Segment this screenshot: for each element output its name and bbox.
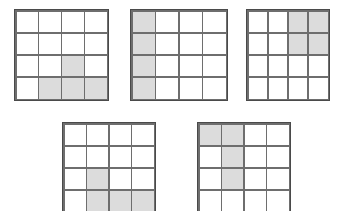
grid-cell (267, 191, 288, 211)
grid-cell (110, 169, 131, 190)
grid-cell (87, 125, 108, 146)
grid-cell (200, 191, 221, 211)
grid-cell (245, 147, 266, 168)
grid-1 (14, 9, 109, 101)
grid-cell (110, 147, 131, 168)
grid-cell (65, 169, 86, 190)
grid-cell (269, 12, 288, 33)
grid-cell (180, 34, 202, 55)
grid-cell (132, 169, 153, 190)
grid-cell (65, 191, 86, 211)
grid-cell (62, 78, 83, 99)
grid-cell (17, 56, 38, 77)
grid-cell (110, 191, 131, 211)
grid-cell (180, 12, 202, 33)
grid-cell (289, 12, 308, 33)
grid-cell (17, 78, 38, 99)
grid-cell (85, 78, 106, 99)
grid-cell (267, 125, 288, 146)
grid-3 (246, 9, 330, 101)
grid-cell (249, 12, 268, 33)
grid-cell (156, 78, 178, 99)
grid-cell (222, 125, 243, 146)
grid-2 (130, 9, 228, 101)
grid-cell (65, 147, 86, 168)
grid-cell (289, 78, 308, 99)
grids-canvas (0, 0, 345, 211)
grid-cell (249, 56, 268, 77)
grid-cell (200, 147, 221, 168)
grid-cell (62, 12, 83, 33)
grid-cell (156, 56, 178, 77)
grid-cell (309, 34, 328, 55)
grid-cell (222, 191, 243, 211)
grid-cell (85, 12, 106, 33)
grid-cell (65, 125, 86, 146)
grid-cell (87, 191, 108, 211)
grid-cell (39, 78, 60, 99)
grid-cell (267, 147, 288, 168)
grid-cell (249, 78, 268, 99)
grid-cell (17, 12, 38, 33)
grid-cell (132, 191, 153, 211)
grid-cell (245, 169, 266, 190)
grid-cell (200, 169, 221, 190)
grid-cell (249, 34, 268, 55)
grid-cell (85, 34, 106, 55)
grid-cell (39, 56, 60, 77)
grid-cell (133, 12, 155, 33)
grid-cell (133, 56, 155, 77)
grid-cell (132, 125, 153, 146)
grid-cell (309, 56, 328, 77)
grid-cell (180, 78, 202, 99)
grid-5 (197, 122, 291, 211)
grid-cell (269, 56, 288, 77)
grid-4 (62, 122, 156, 211)
grid-cell (39, 34, 60, 55)
grid-cell (269, 78, 288, 99)
grid-cell (156, 12, 178, 33)
grid-cell (203, 12, 225, 33)
grid-cell (200, 125, 221, 146)
grid-cell (289, 34, 308, 55)
grid-cell (133, 34, 155, 55)
grid-cell (203, 34, 225, 55)
grid-cell (17, 34, 38, 55)
grid-cell (203, 56, 225, 77)
grid-cell (132, 147, 153, 168)
grid-cell (39, 12, 60, 33)
grid-cell (222, 169, 243, 190)
grid-cell (309, 12, 328, 33)
grid-cell (289, 56, 308, 77)
grid-cell (62, 56, 83, 77)
grid-cell (110, 125, 131, 146)
grid-cell (87, 147, 108, 168)
grid-cell (180, 56, 202, 77)
grid-cell (222, 147, 243, 168)
grid-cell (203, 78, 225, 99)
grid-cell (309, 78, 328, 99)
grid-cell (245, 125, 266, 146)
grid-cell (245, 191, 266, 211)
grid-cell (156, 34, 178, 55)
grid-cell (62, 34, 83, 55)
grid-cell (267, 169, 288, 190)
grid-cell (133, 78, 155, 99)
grid-cell (269, 34, 288, 55)
grid-cell (85, 56, 106, 77)
grid-cell (87, 169, 108, 190)
